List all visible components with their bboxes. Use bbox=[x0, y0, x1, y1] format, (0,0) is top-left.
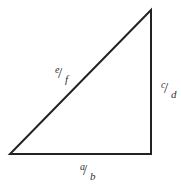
base-denominator: b bbox=[90, 171, 96, 182]
vertical-denominator: d bbox=[171, 89, 177, 100]
hypotenuse-label: e / f bbox=[54, 64, 74, 86]
base-label: a / b bbox=[79, 161, 99, 183]
triangle-shape bbox=[0, 0, 181, 186]
fraction-slash: / bbox=[58, 66, 62, 81]
triangle-outline bbox=[10, 10, 151, 154]
fraction-slash: / bbox=[164, 81, 168, 96]
fraction-slash: / bbox=[83, 163, 87, 178]
vertical-side-label: c / d bbox=[160, 79, 180, 101]
right-triangle-diagram: e / f c / d a / b bbox=[0, 0, 181, 186]
hypotenuse-denominator: f bbox=[65, 74, 68, 85]
